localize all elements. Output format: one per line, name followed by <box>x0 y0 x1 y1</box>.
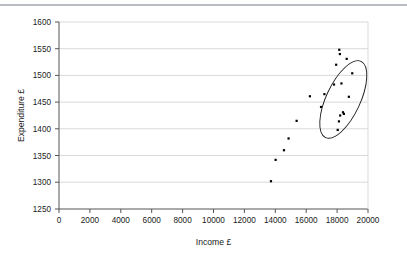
data-point <box>351 72 353 74</box>
scatter-chart: 1600 1550 1500 1450 1400 1350 1300 1250 <box>0 0 407 257</box>
data-point <box>333 83 335 85</box>
axis-lines <box>59 22 368 209</box>
data-point-group <box>270 49 353 183</box>
x-tick-label-2000: 2000 <box>81 216 100 225</box>
data-point <box>296 120 298 122</box>
x-tick-label-8000: 8000 <box>173 216 192 225</box>
x-tick-label-18000: 18000 <box>326 216 349 225</box>
y-tick-label-1450: 1450 <box>33 98 52 107</box>
x-tick-label-16000: 16000 <box>295 216 318 225</box>
chart-canvas: 1600 1550 1500 1450 1400 1350 1300 1250 <box>0 0 407 257</box>
highlight-ellipse-icon <box>310 54 376 144</box>
y-tick-label-1300: 1300 <box>33 178 52 187</box>
gridlines-horizontal <box>59 22 368 182</box>
data-point <box>340 82 342 84</box>
data-point <box>339 114 341 116</box>
data-point <box>338 120 340 122</box>
x-tick-label-10000: 10000 <box>202 216 225 225</box>
x-axis-title: Income £ <box>196 237 232 247</box>
x-tick-label-6000: 6000 <box>143 216 162 225</box>
y-axis-ticks <box>55 22 59 209</box>
data-point <box>287 137 289 139</box>
x-axis-ticks <box>59 209 368 213</box>
data-point <box>337 129 339 131</box>
chart-figure: 1600 1550 1500 1450 1400 1350 1300 1250 <box>0 0 407 257</box>
y-tick-label-1550: 1550 <box>33 45 52 54</box>
data-point <box>309 95 311 97</box>
x-tick-label-0: 0 <box>57 216 62 225</box>
data-point <box>343 113 345 115</box>
data-point <box>270 180 272 182</box>
x-tick-label-20000: 20000 <box>357 216 380 225</box>
x-tick-label-12000: 12000 <box>233 216 256 225</box>
x-axis-tick-labels: 0 2000 4000 6000 8000 10000 12000 14000 … <box>57 216 380 225</box>
x-tick-label-4000: 4000 <box>112 216 131 225</box>
data-point <box>335 64 337 66</box>
y-tick-label-1250: 1250 <box>33 205 52 214</box>
data-point <box>323 93 325 95</box>
y-tick-label-1350: 1350 <box>33 152 52 161</box>
data-point <box>339 53 341 55</box>
data-point <box>338 49 340 51</box>
x-tick-label-14000: 14000 <box>264 216 287 225</box>
y-axis-title: Expenditure £ <box>16 89 26 142</box>
annotation-group <box>310 54 376 144</box>
data-point <box>348 96 350 98</box>
y-tick-label-1600: 1600 <box>33 18 52 27</box>
data-point <box>275 159 277 161</box>
y-tick-label-1400: 1400 <box>33 125 52 134</box>
y-axis-tick-labels: 1600 1550 1500 1450 1400 1350 1300 1250 <box>33 18 52 214</box>
y-tick-label-1500: 1500 <box>33 71 52 80</box>
data-point <box>346 58 348 60</box>
data-point <box>283 149 285 151</box>
